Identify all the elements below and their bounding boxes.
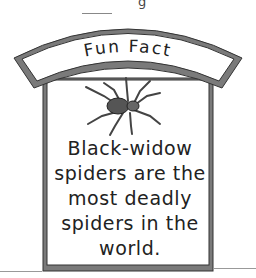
fact-line: spiders in the [48, 211, 212, 236]
fact-line: most deadly [48, 186, 212, 211]
fact-line: spiders are the [48, 161, 212, 186]
ground-line-left [0, 271, 42, 272]
ground-line-right [214, 268, 256, 269]
fact-text: Black-widow spiders are the most deadly … [48, 136, 212, 261]
fact-line: Black-widow [48, 136, 212, 161]
fact-line: world. [48, 236, 212, 261]
